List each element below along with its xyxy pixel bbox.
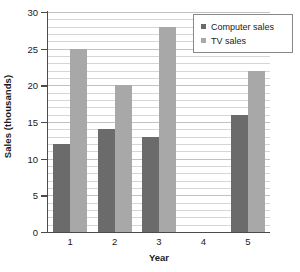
legend-item-label: TV sales xyxy=(211,36,246,46)
y-axis-tick xyxy=(41,85,48,86)
y-axis-tick-label: 25 xyxy=(0,43,38,54)
bar xyxy=(115,85,132,232)
x-axis-tick-label: 4 xyxy=(188,236,218,247)
bar xyxy=(248,71,265,232)
x-axis-tick-label: 2 xyxy=(100,236,130,247)
bar-chart: Sales (thousands) 051015202530 12345 Yea… xyxy=(0,0,300,272)
x-axis-tick-label: 3 xyxy=(144,236,174,247)
y-axis-tick xyxy=(41,159,48,160)
legend: Computer salesTV sales xyxy=(193,14,293,53)
legend-item: Computer sales xyxy=(199,20,287,33)
y-axis-tick xyxy=(41,232,48,233)
y-axis-tick xyxy=(41,49,48,50)
legend-item: TV sales xyxy=(199,34,287,47)
y-axis-tick-label: 10 xyxy=(0,153,38,164)
x-axis-line xyxy=(41,232,270,233)
y-axis-tick xyxy=(41,12,48,13)
bar xyxy=(70,49,87,232)
y-axis-tick-label: 20 xyxy=(0,80,38,91)
bar xyxy=(159,27,176,232)
x-axis-title: Year xyxy=(48,252,270,263)
y-axis-tick-label: 15 xyxy=(0,117,38,128)
gridline-major xyxy=(48,12,270,13)
y-axis-tick xyxy=(41,122,48,123)
x-axis-tick-label: 1 xyxy=(55,236,85,247)
legend-swatch-icon xyxy=(201,24,206,29)
bar xyxy=(53,144,70,232)
legend-item-label: Computer sales xyxy=(211,22,274,32)
y-axis-tick-label: 0 xyxy=(0,227,38,238)
y-axis-tick-label: 30 xyxy=(0,7,38,18)
y-axis-tick xyxy=(41,195,48,196)
y-axis-tick-label: 5 xyxy=(0,190,38,201)
legend-swatch-icon xyxy=(201,38,206,43)
x-axis-tick-label: 5 xyxy=(233,236,263,247)
bar xyxy=(142,137,159,232)
bar xyxy=(231,115,248,232)
bar xyxy=(98,129,115,232)
